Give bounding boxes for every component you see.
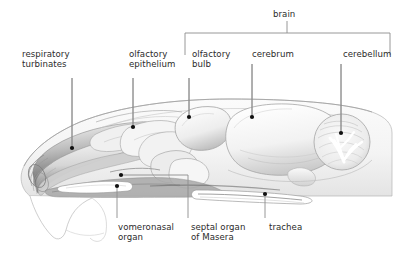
- dot-cerebellum: [339, 131, 343, 135]
- dot-trachea: [263, 192, 267, 196]
- label-vomeronasal-organ: vomeronasal organ: [118, 222, 174, 243]
- dot-septal_organ_of_masera: [119, 173, 123, 177]
- dot-olfactory_bulb: [187, 115, 191, 119]
- dot-vomeronasal_organ: [115, 184, 119, 188]
- dot-respiratory_turbinates: [70, 146, 74, 150]
- label-brain: brain: [273, 9, 295, 19]
- dot-olfactory_epithelium: [131, 125, 135, 129]
- label-trachea: trachea: [269, 222, 302, 232]
- label-olfactory-bulb: olfactory bulb: [192, 49, 230, 70]
- label-septal-organ-of-masera: septal organ of Masera: [191, 222, 245, 243]
- lower-jaw-outline: [30, 196, 106, 241]
- label-respiratory-turbinates: respiratory turbinates: [22, 49, 70, 70]
- anatomical-figure: brain respiratory turbinates olfactory e…: [0, 0, 414, 266]
- cerebellum-arbor-vitae: [314, 114, 370, 170]
- label-olfactory-epithelium: olfactory epithelium: [129, 49, 175, 70]
- label-cerebrum: cerebrum: [252, 49, 294, 59]
- dot-cerebrum: [250, 115, 254, 119]
- label-cerebellum: cerebellum: [343, 49, 391, 59]
